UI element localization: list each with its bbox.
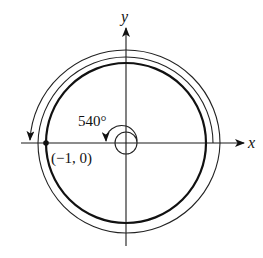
x-axis-label: x <box>247 134 255 151</box>
angle-label: 540° <box>78 113 107 129</box>
y-axis-label: y <box>119 8 129 26</box>
point-negative-one-zero <box>43 140 49 146</box>
angle-indicator-spiral <box>106 126 137 154</box>
rotation-spiral-arc <box>30 50 220 233</box>
unit-circle-diagram: x y 540° (−1, 0) <box>0 0 263 258</box>
point-label: (−1, 0) <box>51 150 92 167</box>
